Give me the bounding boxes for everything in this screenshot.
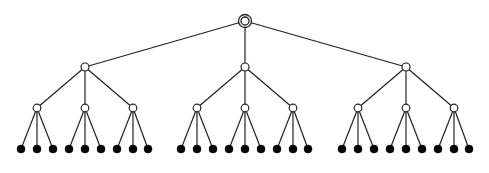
level2-node	[33, 104, 41, 112]
edge-level1-to-level2	[406, 67, 454, 108]
level1-node	[402, 63, 410, 71]
edge-level1-to-level2	[197, 67, 245, 108]
leaf-node	[65, 145, 73, 153]
leaf-node	[193, 145, 201, 153]
tree-edges	[21, 21, 469, 149]
leaf-node	[49, 145, 57, 153]
level2-node	[241, 104, 249, 112]
edge-level2-to-leaf	[406, 108, 422, 149]
edge-level2-to-leaf	[37, 108, 53, 149]
leaf-node	[33, 145, 41, 153]
edge-level2-to-leaf	[454, 108, 469, 149]
leaf-node	[97, 145, 105, 153]
leaf-node	[434, 145, 442, 153]
level2-node	[289, 104, 297, 112]
edge-level2-to-leaf	[293, 108, 308, 149]
edge-level2-to-leaf	[197, 108, 213, 149]
leaf-node	[354, 145, 362, 153]
edge-level2-to-leaf	[342, 108, 358, 149]
root-node-inner-ring	[241, 17, 249, 25]
edge-root-to-level1	[245, 21, 406, 67]
tree-svg	[0, 0, 489, 173]
edge-level1-to-level2	[358, 67, 406, 108]
edge-level2-to-leaf	[117, 108, 133, 149]
edge-level2-to-leaf	[245, 108, 261, 149]
edge-level2-to-leaf	[21, 108, 37, 149]
leaf-node	[225, 145, 233, 153]
leaf-node	[465, 145, 473, 153]
level2-node	[81, 104, 89, 112]
leaf-node	[289, 145, 297, 153]
edge-level2-to-leaf	[181, 108, 197, 149]
edge-level2-to-leaf	[358, 108, 374, 149]
leaf-node	[386, 145, 394, 153]
edge-level2-to-leaf	[133, 108, 148, 149]
edge-level1-to-level2	[85, 67, 133, 108]
level2-node	[129, 104, 137, 112]
leaf-node	[17, 145, 25, 153]
edge-level2-to-leaf	[277, 108, 293, 149]
leaf-node	[241, 145, 249, 153]
level2-node	[354, 104, 362, 112]
edge-level2-to-leaf	[390, 108, 406, 149]
leaf-node	[450, 145, 458, 153]
edge-level2-to-leaf	[229, 108, 245, 149]
level2-node	[402, 104, 410, 112]
tree-diagram	[0, 0, 489, 173]
leaf-node	[370, 145, 378, 153]
edge-root-to-level1	[85, 21, 245, 67]
leaf-node	[177, 145, 185, 153]
leaf-node	[113, 145, 121, 153]
edge-level2-to-leaf	[438, 108, 454, 149]
leaf-node	[257, 145, 265, 153]
level1-node	[241, 63, 249, 71]
level2-node	[450, 104, 458, 112]
edge-level1-to-level2	[245, 67, 293, 108]
leaf-node	[273, 145, 281, 153]
edge-level2-to-leaf	[69, 108, 85, 149]
level1-node	[81, 63, 89, 71]
level2-node	[193, 104, 201, 112]
edge-level2-to-leaf	[85, 108, 101, 149]
leaf-node	[129, 145, 137, 153]
leaf-node	[338, 145, 346, 153]
leaf-node	[209, 145, 217, 153]
edge-level1-to-level2	[37, 67, 85, 108]
leaf-node	[81, 145, 89, 153]
leaf-node	[144, 145, 152, 153]
leaf-node	[418, 145, 426, 153]
leaf-node	[402, 145, 410, 153]
leaf-node	[304, 145, 312, 153]
